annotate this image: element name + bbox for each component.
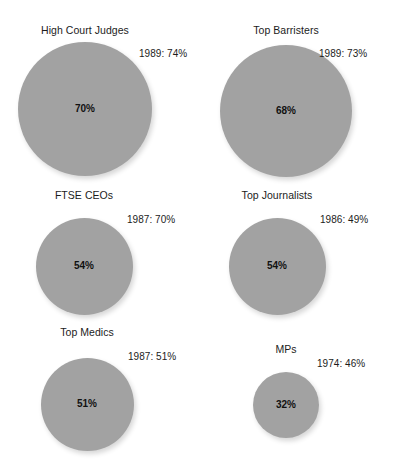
bubble-value-top-journalists: 54% <box>217 260 337 271</box>
bubble-value-top-medics: 51% <box>27 398 147 409</box>
bubble-annotation-top-barristers: 1989: 73% <box>319 48 367 59</box>
bubble-annotation-ftse-ceos: 1987: 70% <box>127 214 175 225</box>
bubble-value-high-court-judges: 70% <box>25 103 145 114</box>
bubble-title-top-journalists: Top Journalists <box>177 190 377 201</box>
bubble-annotation-top-journalists: 1986: 49% <box>320 214 368 225</box>
bubble-title-top-medics: Top Medics <box>0 327 187 338</box>
bubble-chart-canvas: High Court Judges 70% 1989: 74% Top Barr… <box>0 0 393 466</box>
bubble-value-ftse-ceos: 54% <box>24 260 144 271</box>
bubble-value-mps: 32% <box>226 399 346 410</box>
bubble-title-mps: MPs <box>186 344 386 355</box>
bubble-title-top-barristers: Top Barristers <box>186 25 386 36</box>
bubble-title-ftse-ceos: FTSE CEOs <box>0 190 184 201</box>
bubble-annotation-mps: 1974: 46% <box>317 358 365 369</box>
bubble-annotation-high-court-judges: 1989: 74% <box>139 48 187 59</box>
bubble-value-top-barristers: 68% <box>226 105 346 116</box>
bubble-annotation-top-medics: 1987: 51% <box>128 351 176 362</box>
bubble-title-high-court-judges: High Court Judges <box>0 25 185 36</box>
